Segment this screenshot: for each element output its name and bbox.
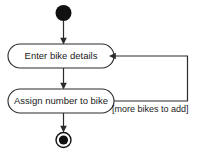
action-enter-bike-details-label: Enter bike details bbox=[25, 50, 98, 61]
activity-diagram-svg: Enter bike details Assign number to bike… bbox=[0, 0, 199, 155]
action-enter-bike-details[interactable]: Enter bike details bbox=[8, 44, 114, 68]
initial-node bbox=[56, 5, 72, 21]
activity-diagram-canvas: Enter bike details Assign number to bike… bbox=[0, 0, 199, 155]
flow-initial-to-enter-details bbox=[60, 21, 67, 45]
flow-loop-back-to-enter-details bbox=[109, 53, 188, 101]
arrowhead-icon bbox=[60, 126, 67, 133]
guard-condition-label: [more bikes to add] bbox=[112, 104, 189, 114]
final-node-inner-disc bbox=[59, 135, 68, 144]
final-node bbox=[56, 133, 71, 148]
flow-enter-details-to-assign-number bbox=[60, 68, 67, 90]
action-assign-number-to-bike[interactable]: Assign number to bike bbox=[8, 89, 114, 113]
flow-assign-number-to-final bbox=[60, 113, 67, 133]
action-assign-number-to-bike-label: Assign number to bike bbox=[14, 95, 108, 106]
